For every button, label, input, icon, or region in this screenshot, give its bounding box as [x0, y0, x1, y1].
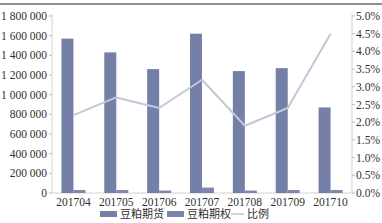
- x-tick-label: 201704: [56, 196, 91, 208]
- bar-futures: [61, 39, 73, 193]
- left-tick-label: 1 000 000: [1, 89, 47, 101]
- left-tick-label: 1 200 000: [1, 69, 47, 81]
- bar-options: [73, 190, 85, 193]
- left-tick-label: 1 400 000: [1, 49, 47, 61]
- legend: 豆粕期货 豆粕期权 比例: [100, 207, 269, 220]
- right-tick-label: 2.0%: [356, 116, 380, 128]
- right-tick-label: 0.5%: [356, 169, 380, 181]
- bar-options: [159, 191, 171, 193]
- left-tick-label: 1 800 000: [1, 10, 47, 22]
- legend-label-options: 豆粕期权: [187, 207, 231, 220]
- bar-futures: [190, 34, 202, 193]
- bar-options: [245, 191, 257, 193]
- x-tick-label: 201707: [185, 196, 220, 208]
- right-tick-label: 4.0%: [356, 45, 380, 57]
- legend-label-ratio: 比例: [247, 207, 269, 220]
- bar-futures: [147, 69, 159, 193]
- bar-options: [331, 190, 343, 193]
- x-axis-labels: 2017042017052017062017072017082017092017…: [56, 196, 348, 208]
- chart: 0200 000400 000600 000800 0001 000 0001 …: [0, 0, 382, 223]
- bar-options: [202, 188, 214, 193]
- left-tick-label: 800 000: [10, 108, 48, 120]
- bars: [61, 34, 342, 193]
- x-tick-label: 201705: [99, 196, 134, 208]
- bar-futures: [104, 52, 116, 193]
- x-tick-label: 201708: [228, 196, 263, 208]
- bar-options: [288, 190, 300, 193]
- right-tick-label: 3.0%: [356, 81, 380, 93]
- left-tick-label: 0: [41, 187, 47, 199]
- legend-label-futures: 豆粕期货: [120, 207, 164, 220]
- left-tick-label: 400 000: [10, 148, 48, 160]
- right-tick-label: 1.0%: [356, 152, 380, 164]
- right-tick-label: 5.0%: [356, 10, 380, 22]
- legend-swatch-futures: [100, 211, 117, 217]
- bar-futures: [233, 71, 245, 193]
- x-tick-label: 201710: [313, 196, 348, 208]
- left-tick-label: 600 000: [10, 128, 48, 140]
- right-tick-label: 0.0%: [356, 187, 380, 199]
- x-tick-label: 201709: [270, 196, 305, 208]
- bar-futures: [276, 68, 288, 193]
- right-tick-label: 2.5%: [356, 99, 380, 111]
- legend-swatch-options: [167, 211, 184, 217]
- bar-options: [116, 190, 128, 193]
- right-tick-label: 1.5%: [356, 134, 380, 146]
- left-tick-label: 1 600 000: [1, 30, 47, 42]
- right-tick-label: 4.5%: [356, 28, 380, 40]
- right-tick-label: 3.5%: [356, 63, 380, 75]
- bar-futures: [319, 107, 331, 193]
- left-tick-label: 200 000: [10, 167, 48, 179]
- x-tick-label: 201706: [142, 196, 177, 208]
